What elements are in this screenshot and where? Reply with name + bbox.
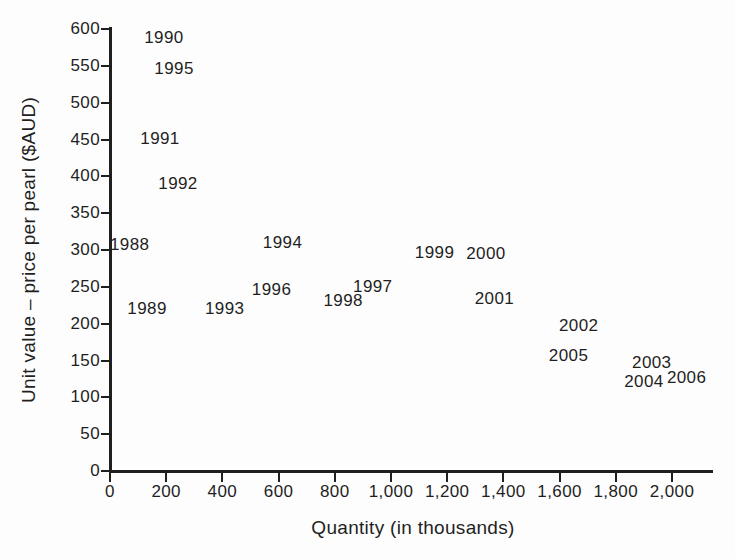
- y-tick-label: 300: [34, 241, 100, 259]
- x-tick-mark: [671, 473, 673, 482]
- data-point-year-label: 1990: [144, 29, 183, 47]
- pearl-price-quantity-scatter-chart: Unit value – price per pearl ($AUD) Quan…: [0, 0, 735, 559]
- data-point-year-label: 1998: [324, 292, 363, 310]
- y-tick-label: 50: [34, 425, 100, 443]
- y-tick-label: 200: [34, 315, 100, 333]
- data-point-year-label: 2006: [667, 369, 706, 387]
- y-tick-label: 500: [34, 94, 100, 112]
- data-point-year-label: 1995: [154, 60, 193, 78]
- data-point-year-label: 1991: [140, 130, 179, 148]
- y-tick-label: 550: [34, 57, 100, 75]
- data-point-year-label: 1988: [110, 236, 149, 254]
- y-tick-label: 150: [34, 352, 100, 370]
- y-tick-mark: [101, 470, 110, 472]
- data-point-year-label: 2002: [559, 317, 598, 335]
- y-tick-mark: [101, 396, 110, 398]
- y-tick-label: 600: [34, 20, 100, 38]
- y-tick-label: 350: [34, 204, 100, 222]
- y-tick-mark: [101, 249, 110, 251]
- data-point-year-label: 1993: [205, 300, 244, 318]
- y-tick-label: 250: [34, 278, 100, 296]
- x-axis-line: [109, 470, 713, 473]
- y-tick-mark: [101, 175, 110, 177]
- y-tick-mark: [101, 102, 110, 104]
- x-axis-title: Quantity (in thousands): [311, 517, 514, 539]
- y-tick-mark: [101, 323, 110, 325]
- data-point-year-label: 1992: [158, 175, 197, 193]
- x-tick-mark: [109, 473, 111, 482]
- x-tick-mark: [334, 473, 336, 482]
- data-point-year-label: 2003: [632, 354, 671, 372]
- data-point-year-label: 2001: [475, 290, 514, 308]
- data-point-year-label: 1994: [263, 234, 302, 252]
- y-tick-mark: [101, 28, 110, 30]
- x-tick-mark: [221, 473, 223, 482]
- y-tick-label: 400: [34, 167, 100, 185]
- y-tick-mark: [101, 286, 110, 288]
- y-tick-mark: [101, 65, 110, 67]
- x-tick-mark: [278, 473, 280, 482]
- data-point-year-label: 1996: [252, 281, 291, 299]
- x-tick-mark: [615, 473, 617, 482]
- data-point-year-label: 2004: [624, 373, 663, 391]
- y-tick-mark: [101, 433, 110, 435]
- data-point-year-label: 2000: [466, 245, 505, 263]
- data-point-year-label: 1989: [127, 300, 166, 318]
- x-tick-mark: [559, 473, 561, 482]
- x-tick-label: 2,000: [634, 483, 710, 501]
- y-tick-label: 100: [34, 388, 100, 406]
- y-tick-label: 0: [34, 462, 100, 480]
- data-point-year-label: 1999: [415, 244, 454, 262]
- x-tick-mark: [390, 473, 392, 482]
- y-tick-mark: [101, 360, 110, 362]
- y-tick-label: 450: [34, 131, 100, 149]
- data-point-year-label: 2005: [549, 347, 588, 365]
- x-tick-mark: [165, 473, 167, 482]
- y-tick-mark: [101, 212, 110, 214]
- y-tick-mark: [101, 139, 110, 141]
- x-tick-mark: [446, 473, 448, 482]
- x-tick-mark: [502, 473, 504, 482]
